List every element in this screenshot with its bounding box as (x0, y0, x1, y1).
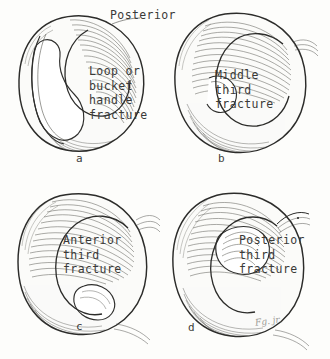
caption-c-line-3: fracture (63, 262, 122, 276)
caption-d-line-2: third (239, 248, 276, 262)
caption-b-line-1: Middle (215, 68, 259, 82)
panel-c: Anteriorthirdfracture c (0, 180, 165, 359)
caption-d: Posteriorthirdfracture (239, 233, 305, 277)
caption-a-line-4: fracture (89, 108, 148, 122)
posterior-heading: Posterior (110, 8, 176, 22)
panel-letter-a: a (76, 152, 83, 165)
caption-c-line-2: third (63, 248, 100, 262)
caption-c-line-1: Anterior (63, 233, 122, 247)
panel-letter-c: c (76, 320, 83, 333)
caption-a: Loop orbuckethandlefracture (89, 64, 148, 122)
caption-d-line-1: Posterior (239, 233, 305, 247)
caption-d-line-3: fracture (239, 262, 298, 276)
panel-d: Posteriorthirdfracture d Fg. jr. (165, 180, 330, 359)
caption-a-line-1: Loop or (89, 64, 140, 78)
caption-b: Middlethirdfracture (215, 68, 274, 112)
panel-letter-b: b (218, 152, 225, 165)
panel-letter-d: d (188, 321, 195, 334)
caption-a-line-3: handle (89, 93, 133, 107)
illustration-plate: Loop orbuckethandlefracture a (0, 0, 330, 359)
caption-b-line-2: third (215, 83, 252, 97)
panel-b: Middlethirdfracture b (165, 0, 330, 180)
caption-c: Anteriorthirdfracture (63, 233, 122, 277)
caption-b-line-3: fracture (215, 97, 274, 111)
caption-a-line-2: bucket (89, 79, 133, 93)
panel-a: Loop orbuckethandlefracture a (0, 0, 165, 180)
